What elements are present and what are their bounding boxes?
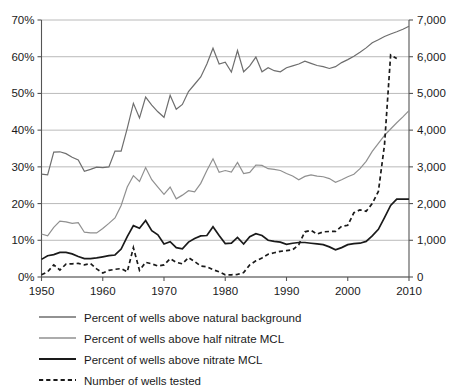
x-axis-tick-label: 1980	[212, 285, 238, 297]
x-axis-tick-labels: 1950196019701980199020002010	[29, 285, 422, 297]
x-axis-tick-label: 2000	[335, 285, 361, 297]
series-line-3	[42, 55, 397, 275]
right-axis-tick-label: 3,000	[417, 161, 446, 173]
left-axis-tick-label: 10%	[11, 234, 34, 246]
right-axis-tick-label: 6,000	[417, 51, 446, 63]
left-axis-tick-label: 50%	[11, 87, 34, 99]
right-axis-tick-label: 4,000	[417, 124, 446, 136]
series-line-0	[42, 26, 410, 175]
right-axis-tick-label: 1,000	[417, 234, 446, 246]
axes	[38, 20, 414, 281]
series-line-2	[42, 199, 410, 259]
left-axis-tick-label: 0%	[18, 271, 35, 283]
series-line-1	[42, 111, 410, 236]
chart-svg: 0%10%20%30%40%50%60%70% 01,0002,0003,000…	[0, 0, 451, 386]
right-axis-tick-label: 5,000	[417, 87, 446, 99]
legend-label-3: Number of wells tested	[84, 375, 201, 386]
right-axis-tick-label: 2,000	[417, 198, 446, 210]
right-axis-tick-label: 0	[417, 271, 423, 283]
right-axis-tick-labels: 01,0002,0003,0004,0005,0006,0007,000	[417, 14, 446, 283]
x-axis-tick-label: 2010	[396, 285, 422, 297]
x-axis-tick-label: 1970	[151, 285, 177, 297]
legend-label-2: Percent of wells above nitrate MCL	[84, 354, 263, 366]
nitrate-wells-chart: 0%10%20%30%40%50%60%70% 01,0002,0003,000…	[0, 0, 451, 386]
left-axis-tick-labels: 0%10%20%30%40%50%60%70%	[11, 14, 34, 283]
legend-label-0: Percent of wells above natural backgroun…	[84, 312, 301, 324]
legend-label-1: Percent of wells above half nitrate MCL	[84, 333, 285, 345]
x-axis-tick-label: 1990	[274, 285, 300, 297]
left-axis-tick-label: 70%	[11, 14, 34, 26]
x-axis-tick-label: 1950	[29, 285, 55, 297]
left-axis-tick-label: 40%	[11, 124, 34, 136]
left-axis-tick-label: 30%	[11, 161, 34, 173]
x-axis-tick-label: 1960	[90, 285, 116, 297]
gridlines	[42, 20, 410, 277]
right-axis-tick-label: 7,000	[417, 14, 446, 26]
chart-legend: Percent of wells above natural backgroun…	[39, 312, 301, 386]
left-axis-tick-label: 20%	[11, 198, 34, 210]
left-axis-tick-label: 60%	[11, 51, 34, 63]
data-series	[42, 26, 410, 275]
